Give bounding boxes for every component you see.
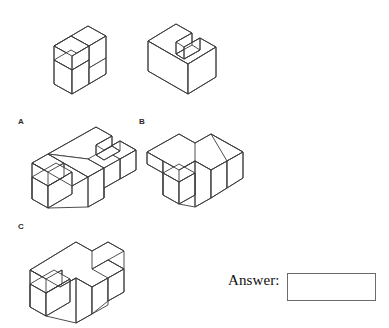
answer-row: Answer:	[228, 272, 280, 289]
option-a-figure[interactable]	[18, 122, 142, 212]
answer-input-box[interactable]	[287, 273, 376, 301]
question-sheet: A	[0, 0, 389, 328]
stimulus-block-right	[140, 14, 226, 108]
answer-label: Answer:	[228, 272, 280, 289]
stimulus-block-left	[44, 18, 126, 110]
option-b-figure[interactable]	[139, 124, 257, 212]
option-c-figure[interactable]	[18, 228, 138, 324]
